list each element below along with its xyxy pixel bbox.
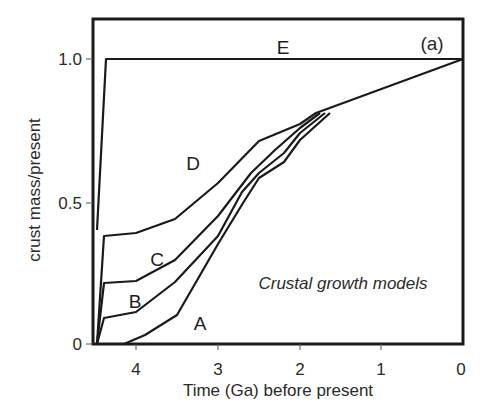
curves bbox=[97, 59, 463, 344]
curve-a bbox=[124, 113, 330, 344]
curve-label-b: B bbox=[129, 291, 142, 312]
plot-frame bbox=[93, 19, 463, 344]
curve-label-e: E bbox=[277, 37, 290, 58]
x-tick-label: 0 bbox=[456, 360, 465, 379]
curve-label-c: C bbox=[150, 249, 164, 270]
x-tick-label: 2 bbox=[295, 360, 304, 379]
x-axis-title: Time (Ga) before present bbox=[183, 381, 373, 400]
y-tick-label: 1.0 bbox=[58, 50, 82, 69]
curve-label-d: D bbox=[186, 153, 200, 174]
crustal-growth-chart: 1.0 0.5 0 4 3 2 1 0 Time (Ga) before pre… bbox=[0, 0, 494, 409]
chart-annotation: Crustal growth models bbox=[258, 274, 428, 293]
x-tick-label: 3 bbox=[213, 360, 222, 379]
x-tick-label: 4 bbox=[131, 360, 140, 379]
y-tick-label: 0 bbox=[73, 335, 82, 354]
y-tick-label: 0.5 bbox=[58, 194, 82, 213]
panel-label: (a) bbox=[420, 33, 443, 54]
y-axis-title: crust mass/present bbox=[25, 118, 44, 262]
curve-label-a: A bbox=[194, 313, 207, 334]
x-tick-label: 1 bbox=[376, 360, 385, 379]
curve-d bbox=[97, 59, 463, 344]
